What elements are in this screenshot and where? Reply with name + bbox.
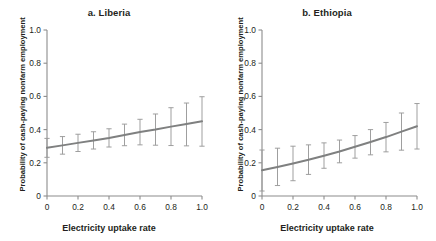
y-tick-label: 0.2: [29, 158, 41, 168]
y-tick-label: 0.8: [244, 58, 256, 68]
y-tick-label: 0.4: [29, 125, 41, 135]
y-tick-label: 0.6: [29, 91, 41, 101]
panel-b-x-axis-label: Electricity uptake rate: [218, 223, 436, 233]
y-tick-label: 0: [36, 191, 41, 201]
y-tick-label: 0: [251, 191, 256, 201]
figure-two-panel-margins-plot: a. Liberia Probability of cash-paying no…: [0, 0, 436, 241]
x-tick-label: 0.2: [72, 202, 84, 212]
x-tick-label: 0.2: [287, 202, 299, 212]
x-tick-label: 1.0: [411, 202, 423, 212]
panel-b-plot-area: 00.20.40.60.81.000.20.40.60.81.0: [218, 0, 436, 241]
y-tick-label: 1.0: [244, 25, 256, 35]
x-tick-label: 0: [260, 202, 265, 212]
x-tick-label: 0.4: [103, 202, 115, 212]
x-tick-label: 0: [45, 202, 50, 212]
panel-a-x-axis-label: Electricity uptake rate: [0, 223, 218, 233]
panel-a-svg: 00.20.40.60.81.000.20.40.60.81.0: [0, 0, 218, 241]
x-tick-label: 1.0: [196, 202, 208, 212]
panel-b-ethiopia: b. Ethiopia Probability of cash-paying n…: [218, 0, 436, 241]
x-tick-label: 0.8: [380, 202, 392, 212]
y-tick-label: 0.2: [244, 158, 256, 168]
y-tick-label: 0.4: [244, 125, 256, 135]
y-tick-label: 0.6: [244, 91, 256, 101]
y-tick-label: 1.0: [29, 25, 41, 35]
panel-a-plot-area: 00.20.40.60.81.000.20.40.60.81.0: [0, 0, 218, 241]
x-tick-label: 0.6: [349, 202, 361, 212]
y-tick-label: 0.8: [29, 58, 41, 68]
x-tick-label: 0.8: [165, 202, 177, 212]
panel-b-svg: 00.20.40.60.81.000.20.40.60.81.0: [218, 0, 436, 241]
panel-a-liberia: a. Liberia Probability of cash-paying no…: [0, 0, 218, 241]
x-tick-label: 0.6: [134, 202, 146, 212]
x-tick-label: 0.4: [318, 202, 330, 212]
